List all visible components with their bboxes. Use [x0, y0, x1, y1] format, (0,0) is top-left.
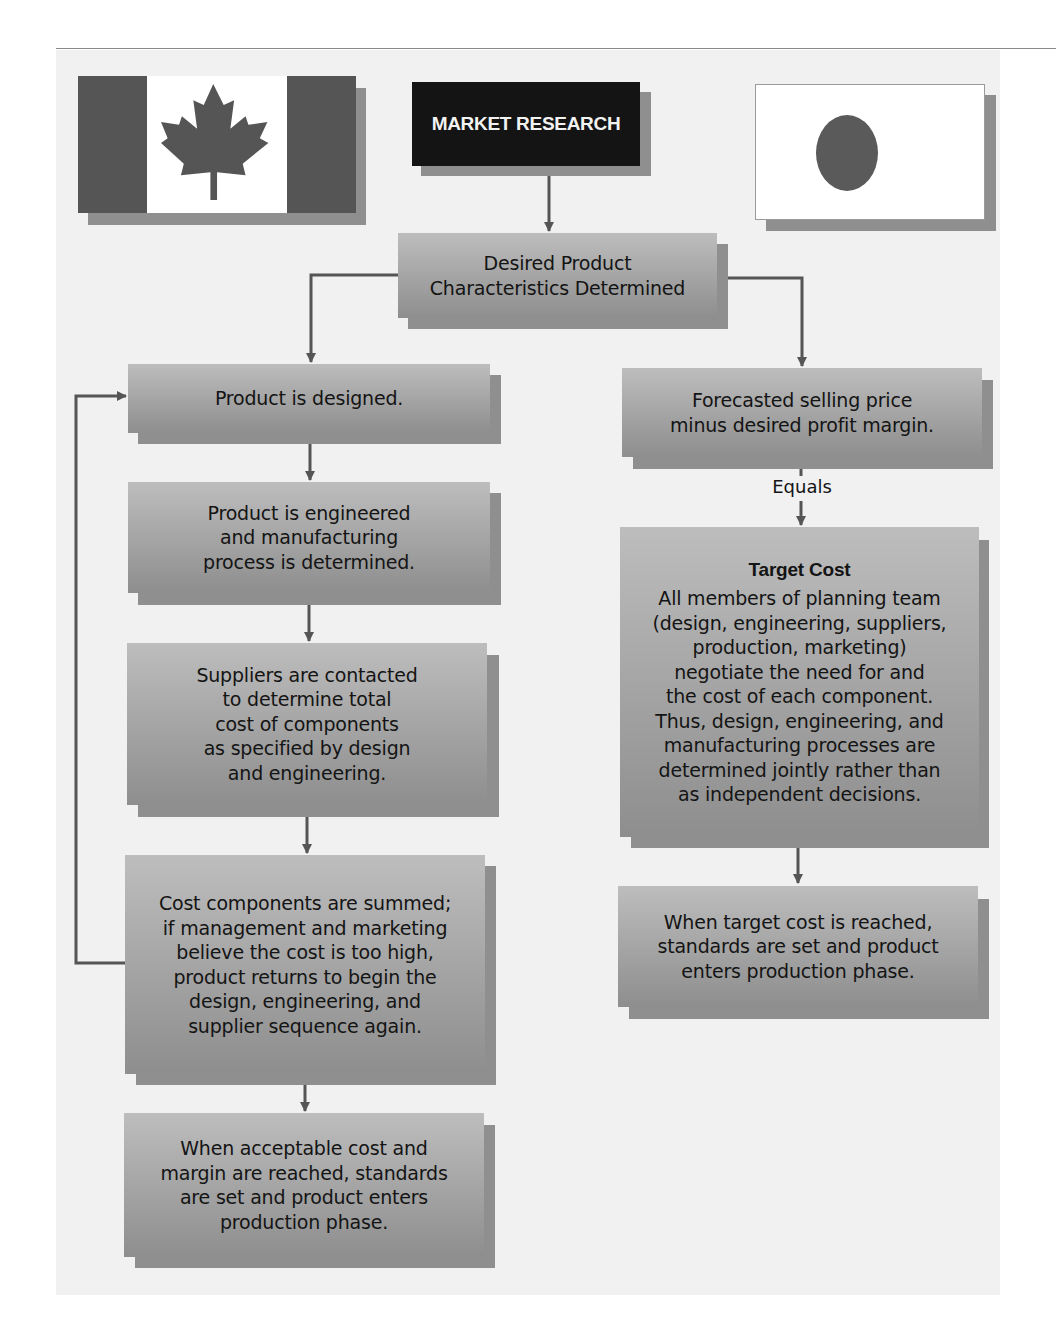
node-text-line: to determine total: [223, 687, 392, 712]
node-text-line: product returns to begin the: [173, 965, 436, 990]
node-text-line: When acceptable cost and: [180, 1136, 427, 1161]
product-engineered-node: Product is engineered and manufacturing …: [128, 482, 490, 593]
node-text-line: and engineering.: [228, 761, 386, 786]
node-text-line: Product is engineered: [208, 501, 411, 526]
node-text-line: production phase.: [220, 1210, 388, 1235]
node-text-line: Desired Product: [484, 251, 632, 276]
node-text-line: supplier sequence again.: [188, 1014, 422, 1039]
desired-product-node: Desired Product Characteristics Determin…: [398, 233, 717, 318]
node-text-line: Suppliers are contacted: [196, 663, 417, 688]
target-reached-node: When target cost is reached, standards a…: [618, 886, 978, 1007]
node-text-line: design, engineering, and: [189, 989, 421, 1014]
node-text-line: negotiate the need for and: [674, 660, 924, 685]
node-text-line: margin are reached, standards: [160, 1161, 447, 1186]
acceptable-cost-node: When acceptable cost and margin are reac…: [124, 1113, 484, 1257]
node-text-line: Thus, design, engineering, and: [655, 709, 943, 734]
node-text-line: Cost components are summed;: [159, 891, 451, 916]
node-text-line: believe the cost is too high,: [176, 940, 433, 965]
node-text-line: determined jointly rather than: [659, 758, 941, 783]
node-text-line: are set and product enters: [180, 1185, 428, 1210]
node-text-line: as independent decisions.: [678, 782, 921, 807]
target-cost-node: Target Cost All members of planning team…: [620, 527, 979, 837]
node-text-line: Forecasted selling price: [692, 388, 912, 413]
product-designed-node: Product is designed.: [128, 364, 490, 433]
forecasted-price-node: Forecasted selling price minus desired p…: [622, 368, 982, 457]
node-text-line: Product is designed.: [215, 386, 403, 411]
node-text-line: enters production phase.: [681, 959, 914, 984]
equals-label: Equals: [760, 476, 844, 497]
node-text-line: process is determined.: [203, 550, 415, 575]
node-text-line: (design, engineering, suppliers,: [653, 611, 947, 636]
node-text-line: and manufacturing: [220, 525, 398, 550]
node-text-line: production, marketing): [693, 635, 907, 660]
node-text-line: as specified by design: [204, 736, 411, 761]
node-text-line: All members of planning team: [658, 586, 940, 611]
node-text-line: Characteristics Determined: [430, 276, 685, 301]
node-text-line: manufacturing processes are: [664, 733, 936, 758]
suppliers-contacted-node: Suppliers are contacted to determine tot…: [127, 643, 487, 805]
node-text-line: the cost of each component.: [666, 684, 933, 709]
node-text-line: When target cost is reached,: [664, 910, 933, 935]
node-text-line: if management and marketing: [163, 916, 448, 941]
cost-summed-node: Cost components are summed; if managemen…: [125, 855, 485, 1074]
target-cost-title: Target Cost: [749, 558, 851, 583]
node-text-line: cost of components: [215, 712, 399, 737]
node-text-line: minus desired profit margin.: [670, 413, 934, 438]
node-text-line: standards are set and product: [657, 934, 938, 959]
